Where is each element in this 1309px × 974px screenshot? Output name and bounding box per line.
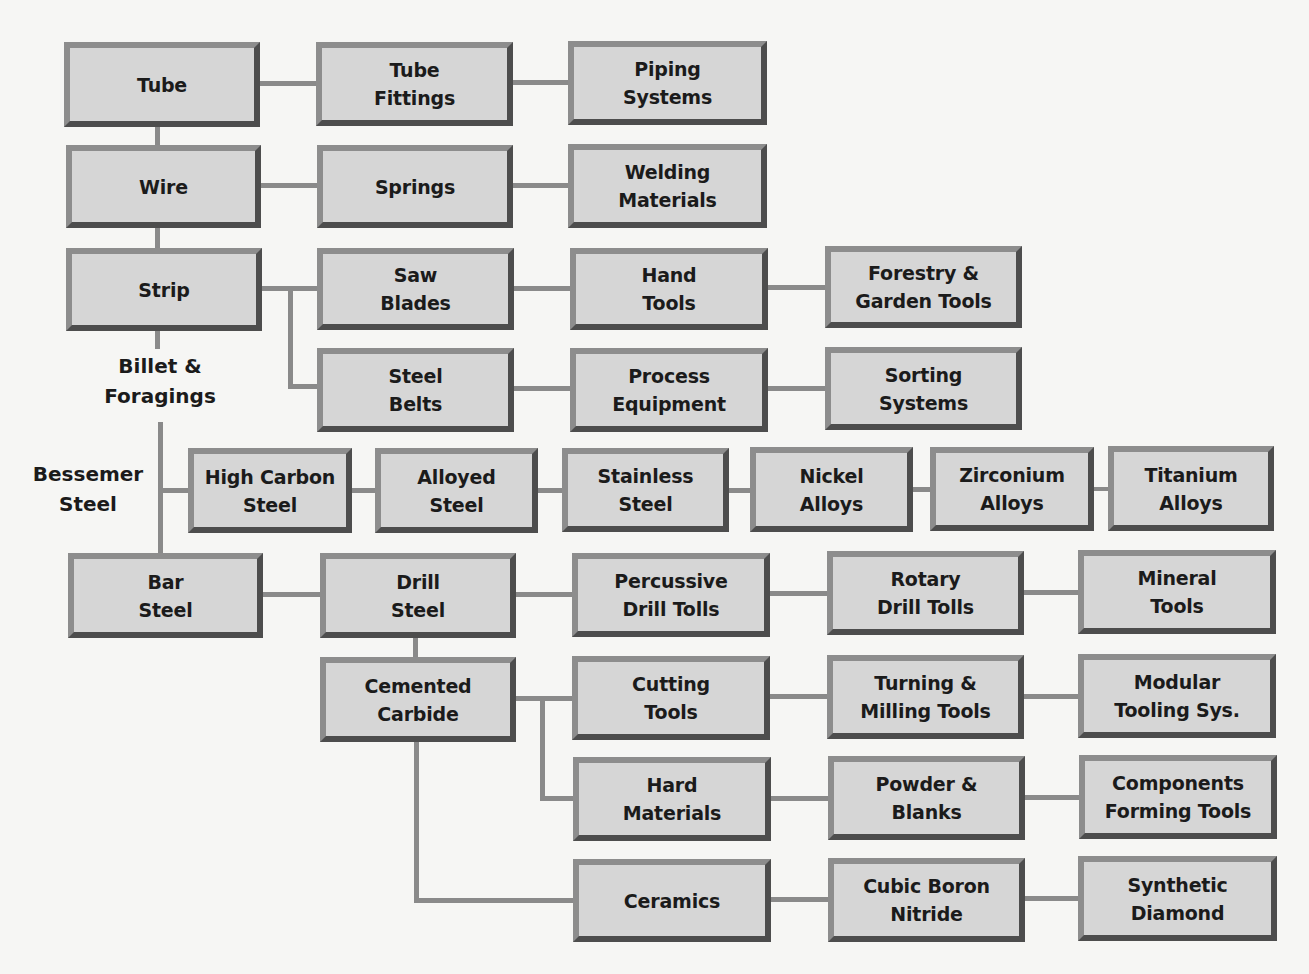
node-label: Drill Steel [391,568,445,624]
connector-line [155,331,160,349]
connector-line [1024,590,1078,595]
node-process-equipment: Process Equipment [570,348,768,432]
connector-line [771,796,828,801]
node-label: Sorting Systems [879,361,968,417]
node-steel-belts: Steel Belts [317,348,514,432]
node-rotary-drill-tolls: Rotary Drill Tolls [827,551,1024,635]
flowchart-canvas: TubeTube FittingsPiping SystemsWireSprin… [0,0,1309,974]
node-label: Hand Tools [641,261,696,317]
node-synthetic-diamond: Synthetic Diamond [1078,856,1277,941]
node-strip: Strip [66,248,262,331]
node-label: Synthetic Diamond [1127,871,1227,927]
node-label: Strip [138,276,189,304]
connector-line [514,386,570,391]
connector-line [540,796,573,801]
node-ceramics: Ceramics [573,859,771,942]
connector-line [1094,487,1108,491]
node-label: Cubic Boron Nitride [863,872,990,928]
connector-line [155,127,160,145]
connector-line [770,694,827,699]
node-stainless-steel: Stainless Steel [562,448,729,532]
node-label: Powder & Blanks [876,770,978,826]
node-cubic-boron-nitride: Cubic Boron Nitride [828,858,1025,942]
connector-line [768,386,825,391]
node-label: Turning & Milling Tools [860,669,990,725]
node-label: Mineral Tools [1137,564,1216,620]
connector-line [540,696,545,799]
connector-line [414,742,419,903]
connector-line [771,897,828,902]
node-label: Zirconium Alloys [959,461,1065,517]
node-label: Welding Materials [618,158,716,214]
connector-line [770,591,827,596]
connector-line [414,898,573,903]
connector-line [155,228,160,248]
node-tube-fittings: Tube Fittings [316,42,513,126]
node-wire: Wire [66,145,261,228]
node-drill-steel: Drill Steel [320,553,516,638]
node-alloyed-steel: Alloyed Steel [375,448,538,533]
connector-line [768,285,825,290]
node-label: Cutting Tools [632,670,710,726]
node-label: Ceramics [624,887,720,915]
node-label: Piping Systems [623,55,712,111]
node-label: Alloyed Steel [417,463,495,519]
node-label: Percussive Drill Tolls [614,567,727,623]
node-label: High Carbon Steel [205,463,335,519]
connector-line [913,487,930,492]
node-bar-steel: Bar Steel [68,553,263,638]
node-sorting-systems: Sorting Systems [825,347,1022,430]
node-label: Rotary Drill Tolls [877,565,974,621]
connector-line [1024,694,1078,699]
node-hand-tools: Hand Tools [570,248,768,330]
connector-line [288,384,317,389]
connector-line [260,81,316,86]
node-piping-systems: Piping Systems [568,41,767,125]
node-nickel-alloys: Nickel Alloys [750,447,913,532]
node-label: Titanium Alloys [1144,461,1237,517]
node-cemented-carbide: Cemented Carbide [320,657,516,742]
node-label: Cemented Carbide [364,672,471,728]
node-label: Stainless Steel [598,462,694,518]
connector-line [288,286,293,389]
node-titanium-alloys: Titanium Alloys [1108,446,1274,531]
node-label: Wire [139,173,188,201]
node-label: Modular Tooling Sys. [1114,668,1240,724]
node-springs: Springs [317,145,513,228]
node-zirconium-alloys: Zirconium Alloys [930,447,1094,531]
node-label: Springs [375,173,455,201]
node-label: Components Forming Tools [1105,769,1251,825]
node-modular-tooling-sys: Modular Tooling Sys. [1078,654,1276,738]
node-components-forming-tools: Components Forming Tools [1079,755,1277,839]
node-label: Hard Materials [623,771,721,827]
connector-line [413,638,418,657]
label-bessemer: Bessemer Steel [18,459,158,519]
connector-line [513,183,568,188]
node-percussive-drill-tolls: Percussive Drill Tolls [572,553,770,637]
connector-line [538,488,562,493]
node-saw-blades: Saw Blades [317,248,514,330]
connector-line [1025,795,1079,800]
node-high-carbon-steel: High Carbon Steel [188,448,352,533]
node-mineral-tools: Mineral Tools [1078,550,1276,634]
node-welding-materials: Welding Materials [568,144,767,228]
connector-line [261,183,317,188]
node-tube: Tube [64,42,260,127]
node-forestry-garden-tools: Forestry & Garden Tools [825,246,1022,328]
node-label: Forestry & Garden Tools [855,259,991,315]
node-label: Tube [137,71,187,99]
node-hard-materials: Hard Materials [573,757,771,841]
node-turning-milling-tools: Turning & Milling Tools [827,655,1024,739]
connector-line [352,488,375,493]
node-label: Nickel Alloys [799,462,863,518]
node-label: Saw Blades [380,261,450,317]
node-label: Process Equipment [612,362,726,418]
connector-line [729,488,750,493]
node-powder-blanks: Powder & Blanks [828,756,1025,840]
connector-line [263,592,320,597]
node-cutting-tools: Cutting Tools [572,656,770,740]
node-label: Tube Fittings [374,56,455,112]
connector-line [158,488,188,493]
label-billet: Billet & Foragings [90,351,230,411]
connector-line [513,80,568,85]
